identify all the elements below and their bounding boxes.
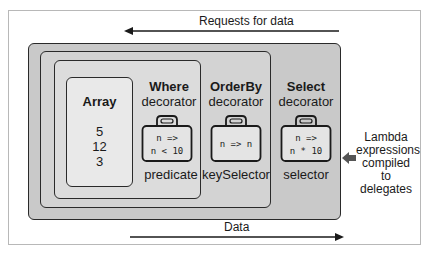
select-title: Select decorator [275,79,337,109]
code-line: n * 10 [280,145,332,158]
data-arrow-icon [128,230,350,244]
code-line: n < 10 [141,145,193,158]
decorator-name: Where [138,79,200,94]
array-values: 5 12 3 [66,124,133,169]
keyselector-caption: keySelector [196,167,276,182]
array-value: 12 [66,139,133,154]
code-line: n => [141,132,193,145]
decorator-subtitle: decorator [275,94,337,109]
where-title: Where decorator [138,79,200,109]
lambda-code: n => n * 10 [280,132,332,158]
lambda-arrow-icon [341,151,357,165]
code-line: n => [280,132,332,145]
code-line: n => n [210,138,262,151]
lambda-note-line: delegates [356,183,416,196]
array-value: 3 [66,154,133,169]
decorator-name: Select [275,79,337,94]
orderby-title: OrderBy decorator [205,79,267,109]
array-value: 5 [66,124,133,139]
decorator-subtitle: decorator [205,94,267,109]
array-title: Array [66,94,133,109]
lambda-code: n => n [210,138,262,151]
selector-caption: selector [266,167,346,182]
lambda-code: n => n < 10 [141,132,193,158]
decorator-name: OrderBy [205,79,267,94]
keyselector-bag-icon: n => n [210,113,262,163]
lambda-note: Lambda expressions compiled to delegates [356,131,416,196]
predicate-bag-icon: n => n < 10 [141,113,193,163]
requests-label: Requests for data [199,14,294,28]
selector-bag-icon: n => n * 10 [280,113,332,163]
decorator-subtitle: decorator [138,94,200,109]
lambda-note-line: compiled to [356,157,416,183]
